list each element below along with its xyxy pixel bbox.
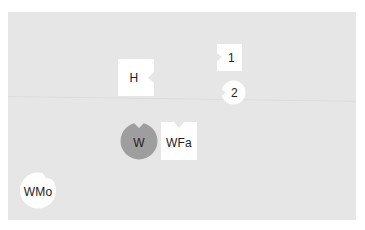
piece-wmo[interactable]: WMo bbox=[20, 172, 56, 209]
piece-1[interactable]: 1 bbox=[217, 44, 242, 71]
piece-label: WFa bbox=[161, 122, 197, 160]
piece-label: W bbox=[120, 122, 158, 160]
piece-label: WMo bbox=[20, 172, 56, 209]
piece-w[interactable]: W bbox=[120, 122, 158, 160]
piece-2[interactable]: 2 bbox=[221, 80, 246, 105]
piece-label: 1 bbox=[217, 44, 242, 71]
piece-label: H bbox=[118, 59, 154, 96]
board bbox=[8, 12, 356, 220]
piece-h[interactable]: H bbox=[118, 59, 154, 96]
piece-wfa[interactable]: WFa bbox=[161, 122, 197, 160]
piece-label: 2 bbox=[221, 80, 246, 105]
